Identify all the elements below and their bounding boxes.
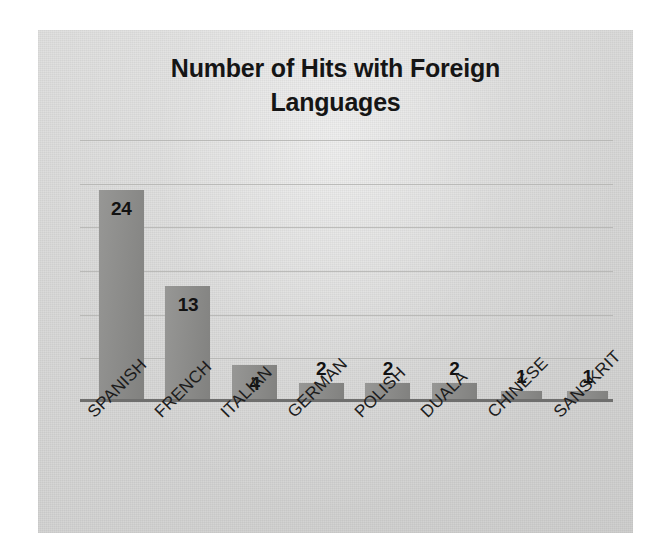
bar-value-label: 24 (99, 198, 144, 220)
chart-panel: Number of Hits with Foreign Languages 24… (38, 30, 633, 533)
photo-frame: Number of Hits with Foreign Languages 24… (0, 0, 669, 559)
chart-title: Number of Hits with Foreign Languages (78, 52, 593, 119)
chart-title-line-2: Languages (78, 86, 593, 120)
bar-value-label: 13 (165, 294, 210, 316)
chart-title-line-1: Number of Hits with Foreign (78, 52, 593, 86)
x-axis-category-labels: SPANISHFRENCHITALIANGERMANPOLISHDUALACHI… (80, 408, 613, 528)
